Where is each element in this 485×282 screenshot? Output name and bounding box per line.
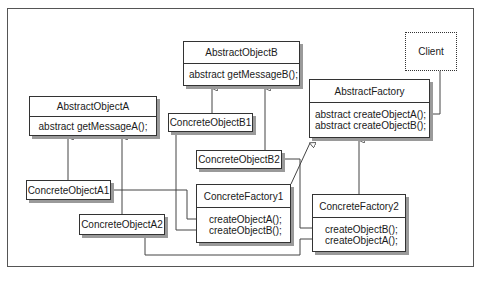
class-concrete-object-a2[interactable]: ConcreteObjectA2 [79, 214, 165, 235]
class-abstract-object-b[interactable]: AbstractObjectB abstract getMessageB(); [183, 41, 300, 86]
method-list: createObjectA(); createObjectB(); [197, 207, 290, 240]
class-concrete-factory-1[interactable]: ConcreteFactory1 createObjectA(); create… [196, 184, 291, 243]
class-concrete-object-b2[interactable]: ConcreteObjectB2 [196, 150, 282, 169]
method-list: abstract createObjectA(); abstract creat… [310, 102, 429, 135]
class-name: AbstractObjectA [30, 97, 156, 116]
class-concrete-object-a1[interactable]: ConcreteObjectA1 [26, 180, 111, 200]
class-abstract-object-a[interactable]: AbstractObjectA abstract getMessageA(); [29, 96, 157, 136]
diagram-canvas: AbstractObjectB abstract getMessageB(); … [0, 0, 485, 282]
method-create-object-a: createObjectA(); [325, 235, 400, 246]
client-label: Client [418, 46, 444, 57]
method-get-message-b: abstract getMessageB(); [184, 63, 299, 84]
class-name: AbstractObjectB [184, 42, 299, 63]
class-name: ConcreteObjectA2 [81, 219, 163, 230]
class-name: ConcreteObjectB1 [170, 117, 252, 128]
method-get-message-a: abstract getMessageA(); [30, 116, 156, 136]
method-create-object-a: abstract createObjectA(); [315, 109, 424, 120]
method-create-object-a: createObjectA(); [209, 214, 285, 225]
class-name: ConcreteFactory2 [313, 195, 405, 217]
class-concrete-object-b1[interactable]: ConcreteObjectB1 [168, 113, 253, 132]
method-create-object-b: abstract createObjectB(); [315, 120, 424, 131]
class-name: ConcreteFactory1 [197, 185, 290, 207]
class-name: ConcreteObjectA1 [28, 185, 110, 196]
class-concrete-factory-2[interactable]: ConcreteFactory2 createObjectB(); create… [312, 194, 406, 252]
client-box[interactable]: Client [405, 32, 457, 71]
class-name: AbstractFactory [310, 80, 429, 102]
class-abstract-factory[interactable]: AbstractFactory abstract createObjectA()… [309, 79, 430, 138]
method-create-object-b: createObjectB(); [325, 224, 400, 235]
method-list: createObjectB(); createObjectA(); [313, 217, 405, 250]
method-create-object-b: createObjectB(); [209, 225, 285, 236]
class-name: ConcreteObjectB2 [198, 154, 280, 165]
